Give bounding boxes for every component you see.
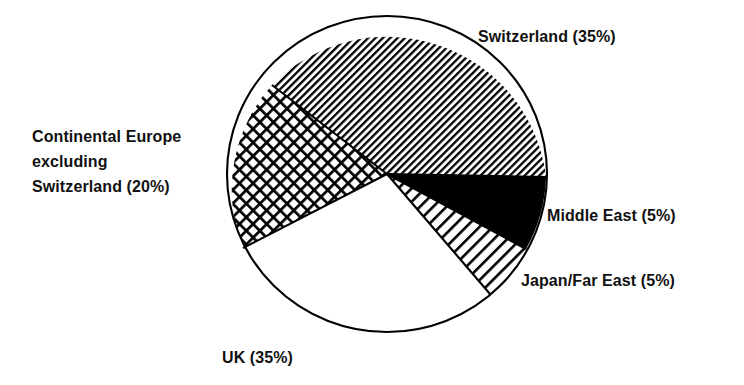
pie-label-continental-europe-line1: Continental Europe [32, 128, 181, 145]
pie-label-continental-europe-line2: excluding [32, 153, 108, 170]
pie-label-middle-east: Middle East (5%) [547, 203, 676, 228]
pie-chart-figure: Switzerland (35%) Continental Europeexcl… [0, 0, 744, 385]
pie-label-japan-far-east: Japan/Far East (5%) [521, 268, 675, 293]
pie-label-uk: UK (35%) [222, 345, 293, 370]
pie-label-continental-europe: Continental EuropeexcludingSwitzerland (… [32, 124, 181, 199]
pie-label-switzerland: Switzerland (35%) [478, 24, 616, 49]
pie-label-continental-europe-line3: Switzerland (20%) [32, 178, 170, 195]
